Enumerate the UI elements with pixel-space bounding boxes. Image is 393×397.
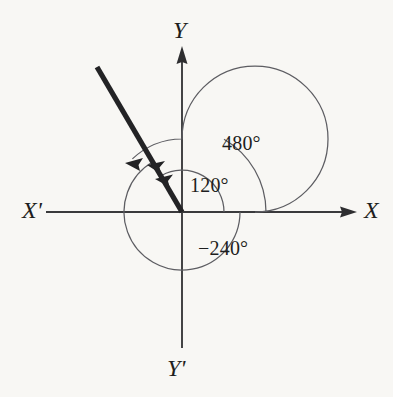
arc-480-arrowhead-icon [125, 158, 143, 171]
coterminal-angles-figure: X' X Y Y' 480° 120° −240° [0, 0, 393, 397]
x-axis-arrowhead-icon [340, 207, 357, 218]
y-axis-arrowhead-icon [177, 46, 188, 64]
angle-label-negative-240: −240° [198, 238, 248, 258]
y-negative-axis-label: Y' [167, 356, 185, 380]
angle-label-480: 480° [222, 133, 261, 153]
figure-canvas [0, 0, 393, 397]
x-negative-axis-label: X' [22, 198, 42, 222]
angle-label-120: 120° [190, 175, 229, 195]
x-positive-axis-label: X [364, 198, 379, 222]
y-positive-axis-label: Y [173, 18, 186, 42]
